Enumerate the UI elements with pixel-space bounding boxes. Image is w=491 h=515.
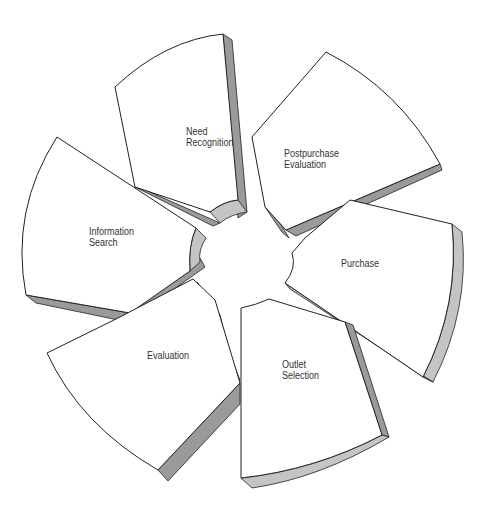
label-evaluation: Evaluation: [147, 350, 189, 361]
label-need-recognition: Need Recognition: [186, 126, 234, 148]
decision-cycle-diagram: [0, 0, 491, 515]
need-recognition-face: [115, 34, 238, 212]
label-information-search: Information Search: [89, 226, 134, 248]
label-purchase: Purchase: [341, 258, 379, 269]
label-outlet-selection: Outlet Selection: [282, 359, 319, 381]
label-postpurchase-evaluation: Postpurchase Evaluation: [284, 148, 339, 170]
